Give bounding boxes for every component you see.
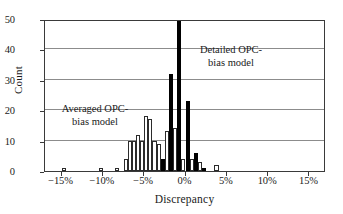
- x-tick-label: 0%: [163, 175, 207, 186]
- histogram-bar: [99, 168, 103, 171]
- histogram-bar: [202, 168, 206, 171]
- y-tick-mark: [40, 172, 44, 173]
- histogram-bar: [194, 153, 198, 171]
- histogram-bar: [161, 159, 165, 171]
- histogram-bar: [169, 74, 173, 171]
- histogram-bar: [186, 101, 190, 171]
- y-tick-label: 40: [0, 45, 15, 55]
- y-tick-label: 0: [0, 167, 15, 177]
- x-tick-mark: [102, 172, 103, 176]
- annotation-averaged-opc-bias-model: Averaged OPC- bias model: [52, 103, 138, 128]
- x-tick-label: 5%: [204, 175, 248, 186]
- histogram-bar: [177, 21, 181, 171]
- x-tick-mark: [267, 172, 268, 176]
- x-tick-mark: [61, 172, 62, 176]
- x-tick-label: −10%: [80, 175, 124, 186]
- annotation-detailed-opc-bias-model: Detailed OPC- bias model: [188, 44, 274, 69]
- x-tick-mark: [185, 172, 186, 176]
- x-tick-label: 10%: [245, 175, 289, 186]
- plot-area: [44, 20, 325, 172]
- x-axis-label: Discrepancy: [44, 193, 325, 205]
- x-tick-label: −5%: [121, 175, 165, 186]
- x-tick-label: 15%: [286, 175, 330, 186]
- histogram-bar: [62, 168, 66, 171]
- y-tick-label: 20: [0, 106, 15, 116]
- x-tick-mark: [143, 172, 144, 176]
- histogram-bar: [214, 165, 218, 171]
- x-tick-mark: [308, 172, 309, 176]
- x-tick-mark: [226, 172, 227, 176]
- histogram-figure: Count 01020304050 −15%−10%−5%0%5%10%15% …: [0, 0, 343, 214]
- y-tick-label: 30: [0, 76, 15, 86]
- y-tick-label: 10: [0, 137, 15, 147]
- x-tick-label: −15%: [39, 175, 83, 186]
- histogram-bar: [115, 168, 119, 171]
- bars-container: [45, 21, 324, 171]
- y-tick-label: 50: [0, 15, 15, 25]
